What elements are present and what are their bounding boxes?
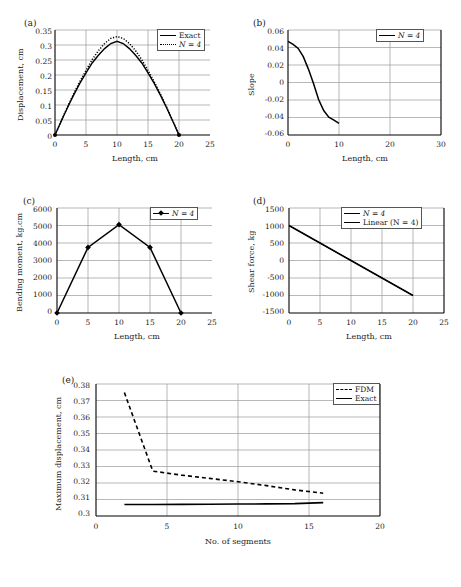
ytick: 2000 — [24, 274, 52, 282]
panel-d-legend: N = 4 Linear (N = 4) — [341, 207, 422, 229]
panel-c: (c) Bending moment, kg.cm 6000 5000 4000… — [0, 175, 230, 350]
panel-b-legend: N = 4 — [376, 29, 424, 42]
ytick: 0.06 — [256, 28, 284, 36]
legend-item: N = 4 — [160, 40, 201, 49]
line-solid-icon — [160, 32, 176, 40]
ytick: 0.05 — [26, 118, 52, 126]
panel-b-ylabel: Slope — [247, 62, 256, 107]
xtick: 20 — [174, 319, 188, 327]
panel-c-ylabel: Bending moment, kg.cm — [15, 200, 24, 325]
xtick: 30 — [434, 141, 448, 149]
endpoint-marker — [177, 133, 181, 137]
xtick: 15 — [375, 319, 389, 327]
grid-horizontal — [288, 30, 441, 118]
panel-c-xlabel: Length, cm — [77, 332, 197, 341]
legend-item: FDM — [336, 385, 376, 394]
ytick: -1500 — [254, 308, 284, 316]
ytick: 0.33 — [62, 462, 90, 470]
ytick: 1500 — [254, 206, 284, 214]
xtick: 10 — [110, 141, 124, 149]
xtick: 0 — [48, 141, 62, 149]
ytick: 0.32 — [62, 478, 90, 486]
legend-label: N = 4 — [363, 209, 385, 218]
ytick: 1000 — [254, 223, 284, 231]
legend-label: Exact — [355, 394, 376, 403]
legend-item: Exact — [336, 394, 376, 403]
ytick: 1000 — [24, 291, 52, 299]
legend-item: Linear (N = 4) — [344, 218, 418, 227]
ytick: -0.06 — [256, 130, 284, 138]
panel-b-tag: (b) — [253, 18, 266, 28]
ytick: 0.15 — [26, 88, 52, 96]
xtick: 15 — [302, 523, 316, 531]
ytick: 0.25 — [26, 58, 52, 66]
panel-b-xlabel: Length, cm — [305, 154, 425, 163]
ytick: 4000 — [24, 240, 52, 248]
panel-c-legend: N = 4 — [150, 207, 198, 220]
xtick: 20 — [373, 523, 387, 531]
ytick: 0.35 — [62, 430, 90, 438]
ytick: 0 — [256, 79, 284, 87]
xtick: 0 — [89, 523, 103, 531]
line-solid-icon — [344, 210, 360, 218]
xtick: 20 — [406, 319, 420, 327]
xtick: 0 — [282, 319, 296, 327]
ytick: 0.35 — [26, 28, 52, 36]
ytick: -0.04 — [256, 113, 284, 121]
ytick: -1000 — [254, 291, 284, 299]
legend-label: Exact — [179, 31, 200, 40]
xtick: 10 — [344, 319, 358, 327]
xtick: 10 — [112, 319, 126, 327]
ytick: 0.34 — [62, 446, 90, 454]
ytick: 0 — [254, 257, 284, 265]
panel-e: (e) Maximum displacement, cm 0.38 0.37 0… — [0, 350, 461, 587]
ytick: -0.02 — [256, 96, 284, 104]
ytick: 0.04 — [256, 45, 284, 53]
panel-a-xlabel: Length, cm — [75, 154, 195, 163]
ytick: 0.2 — [26, 73, 52, 81]
panel-d-tag: (d) — [253, 196, 266, 206]
xtick: 25 — [203, 141, 217, 149]
xtick: 15 — [141, 141, 155, 149]
ytick: 0 — [26, 133, 52, 141]
line-dashed-icon — [336, 386, 352, 394]
ytick: 0.38 — [62, 382, 90, 390]
ytick: 6000 — [24, 206, 52, 214]
ytick: 0.3 — [26, 43, 52, 51]
legend-item: N = 4 — [153, 209, 194, 218]
xtick: 25 — [205, 319, 219, 327]
line-dotted-icon — [160, 41, 176, 49]
ytick: 0.37 — [62, 398, 90, 406]
line-thin-icon — [344, 219, 360, 227]
panel-a-legend: Exact N = 4 — [157, 29, 205, 51]
ytick: 0 — [24, 308, 52, 316]
panel-a: (a) Displacement, cm 0.35 0.3 0.25 0.2 0… — [0, 0, 230, 175]
xtick: 5 — [79, 141, 93, 149]
panel-b: (b) Slope 0.06 0.04 0.02 0 -0.02 -0.04 -… — [230, 0, 461, 175]
legend-label: FDM — [355, 385, 374, 394]
legend-item: N = 4 — [344, 209, 418, 218]
ytick: 0.3 — [62, 510, 90, 518]
ytick: 0.02 — [256, 62, 284, 70]
legend-label: N = 4 — [172, 209, 194, 218]
legend-label: Linear (N = 4) — [363, 218, 418, 227]
xtick: 0 — [50, 319, 64, 327]
xtick: 5 — [160, 523, 174, 531]
panel-d-xlabel: Length, cm — [309, 332, 429, 341]
panel-c-plot — [57, 208, 212, 313]
xtick: 10 — [332, 141, 346, 149]
ytick: 0.31 — [62, 494, 90, 502]
panel-a-ylabel: Displacement, cm — [16, 27, 25, 142]
line-solid-icon — [379, 32, 395, 40]
grid-horizontal — [57, 208, 212, 296]
line-solid-icon — [336, 395, 352, 403]
ytick: 5000 — [24, 223, 52, 231]
xtick: 10 — [231, 523, 245, 531]
xtick: 5 — [313, 319, 327, 327]
ytick: -500 — [254, 274, 284, 282]
panel-e-legend: FDM Exact — [333, 383, 380, 405]
xtick: 15 — [143, 319, 157, 327]
legend-label: N = 4 — [179, 40, 201, 49]
xtick: 25 — [437, 319, 451, 327]
panel-e-xlabel: No. of segments — [178, 537, 298, 546]
